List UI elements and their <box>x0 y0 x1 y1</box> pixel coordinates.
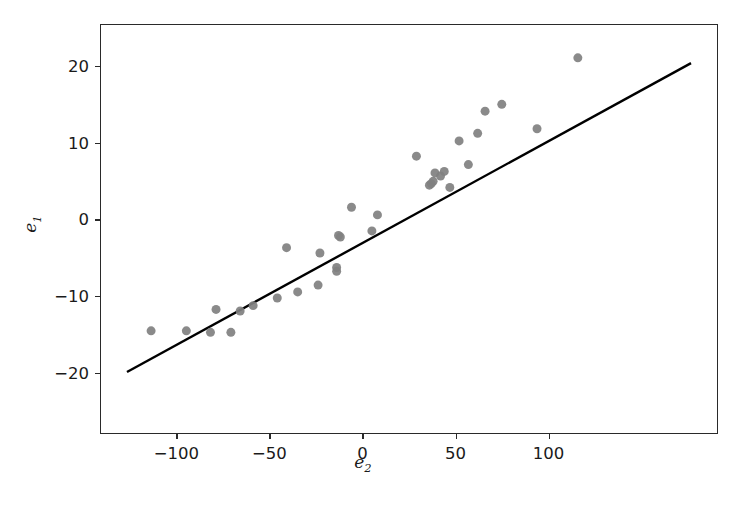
x-tick-label: 50 <box>445 444 466 463</box>
scatter-point <box>473 129 482 138</box>
y-tick-label: 0 <box>79 210 90 229</box>
x-axis-label-subscript: 2 <box>364 461 371 475</box>
scatter-point <box>282 243 291 252</box>
scatter-point <box>445 183 454 192</box>
y-axis-label-text: e <box>20 223 40 233</box>
scatter-point <box>147 326 156 335</box>
scatter-point <box>367 226 376 235</box>
x-tick-label: −100 <box>154 444 199 463</box>
y-tick-mark <box>95 219 100 220</box>
x-tick-mark <box>269 434 270 439</box>
scatter-point <box>273 294 282 303</box>
y-tick-mark <box>95 66 100 67</box>
scatter-point <box>206 328 215 337</box>
scatter-point <box>440 167 449 176</box>
y-tick-label: 10 <box>68 133 89 152</box>
scatter-point <box>314 281 323 290</box>
scatter-point <box>182 326 191 335</box>
y-tick-label: −20 <box>54 363 89 382</box>
fitted-regression-line <box>127 63 691 372</box>
y-tick-label: 20 <box>68 57 89 76</box>
scatter-point <box>236 307 245 316</box>
x-tick-mark <box>362 434 363 439</box>
y-tick-mark <box>95 143 100 144</box>
y-axis-label: e1 <box>20 215 43 232</box>
plot-axes-area <box>100 24 718 434</box>
scatter-point <box>429 177 438 186</box>
y-tick-mark <box>95 373 100 374</box>
scatter-plot-figure: −100−5005010020100−10−20 e2 e1 <box>0 0 748 514</box>
y-tick-mark <box>95 296 100 297</box>
fitted-line-layer <box>127 63 691 372</box>
scatter-points-layer <box>147 53 583 336</box>
scatter-point <box>336 233 345 242</box>
scatter-point <box>293 287 302 296</box>
scatter-point <box>497 100 506 109</box>
scatter-point <box>455 136 464 145</box>
scatter-point <box>481 107 490 116</box>
scatter-point <box>464 160 473 169</box>
scatter-point <box>315 249 324 258</box>
y-axis-label-subscript: 1 <box>30 215 44 222</box>
scatter-point <box>412 152 421 161</box>
scatter-point <box>249 301 258 310</box>
scatter-point <box>573 53 582 62</box>
scatter-point <box>226 328 235 337</box>
scatter-point <box>373 210 382 219</box>
scatter-point <box>332 267 341 276</box>
x-tick-mark <box>549 434 550 439</box>
x-tick-mark <box>456 434 457 439</box>
x-axis-label-text: e <box>354 452 364 472</box>
scatter-point <box>212 305 221 314</box>
x-axis-label: e2 <box>354 452 371 475</box>
scatter-point <box>347 203 356 212</box>
x-tick-mark <box>176 434 177 439</box>
plot-canvas <box>101 25 717 433</box>
y-tick-label: −10 <box>54 287 89 306</box>
x-tick-label: 100 <box>533 444 565 463</box>
x-tick-label: −50 <box>252 444 287 463</box>
scatter-point <box>533 124 542 133</box>
